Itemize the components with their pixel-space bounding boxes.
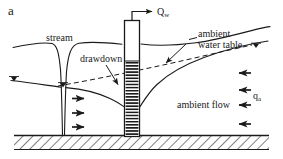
ambient-water-table-label: ambient water table [198, 29, 242, 51]
ambient-flux-subscript: a [258, 95, 261, 103]
flow-arrows-right [239, 73, 251, 124]
ambient-flux-label: qa [253, 91, 261, 102]
cross-section-diagram [0, 0, 283, 159]
ambient-wt-tick [189, 38, 197, 40]
panel-letter: a [8, 4, 14, 18]
pumping-well [125, 21, 140, 137]
drawdown-label: drawdown [80, 54, 122, 65]
discharge-arrow [132, 12, 152, 21]
ambient-water-table-line1: ambient [198, 28, 230, 39]
bedrock-layer [14, 136, 269, 150]
well-screen [126, 61, 139, 136]
flow-arrows-left [72, 99, 84, 128]
ambient-water-table-line2: water table [198, 39, 242, 50]
pumping-rate-subscript: w [164, 11, 169, 19]
pumping-rate-label: Qw [157, 7, 169, 18]
figure-panel-a: a stream drawdown Qw ambient water table… [0, 0, 283, 159]
ambient-water-table-dashed [58, 45, 252, 86]
stream-label: stream [46, 33, 73, 44]
ambient-flow-label: ambient flow [177, 100, 230, 111]
